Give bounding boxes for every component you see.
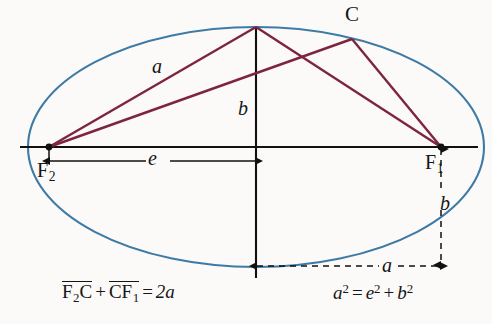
formula-cf1-letters: CF: [109, 281, 132, 302]
formula-e-base: e: [366, 282, 374, 303]
label-linear-eccentricity: e: [148, 148, 157, 168]
label-focus-right-subscript: 1: [436, 161, 443, 176]
label-point-c: C: [345, 4, 359, 25]
label-semi-major-upper: a: [152, 56, 162, 76]
formula-f2c-subscript: 2: [73, 290, 80, 305]
chord-f2-point-c: [49, 39, 352, 147]
label-focus-left-letter: F: [37, 159, 48, 181]
formula-term-cf1: CF1: [109, 281, 139, 305]
chord-point-c-f1: [352, 39, 441, 147]
label-focus-right-letter: F: [425, 151, 436, 173]
formula-a-base: a: [333, 282, 343, 303]
formula-pyth-plus: +: [381, 282, 398, 303]
label-semi-minor-right: b: [440, 193, 450, 213]
formula-term-f2c: F2C: [62, 281, 92, 305]
formula-f2c-c: C: [80, 281, 93, 302]
formula-a-exponent: 2: [343, 281, 349, 296]
formula-pyth-equals: =: [349, 282, 366, 303]
formula-b-exponent: 2: [407, 281, 413, 296]
label-focus-left: F2: [37, 160, 55, 183]
formula-pythagorean: a2=e2+b2: [333, 281, 413, 304]
formula-b-base: b: [397, 282, 407, 303]
diagram-canvas: a b e b a C F1 F2 F2C+CF1=2a a2=e2+b2: [0, 0, 492, 324]
formula-focal-sum: F2C+CF1=2a: [62, 281, 175, 305]
formula-focal-sum-result: 2a: [156, 281, 175, 302]
formula-plus-operator: +: [92, 281, 109, 302]
label-focus-left-subscript: 2: [48, 169, 55, 184]
label-semi-major-lower: a: [382, 255, 392, 275]
ellipse-figure: [0, 0, 492, 324]
formula-f2c-letter: F: [62, 281, 73, 302]
formula-e-exponent: 2: [374, 281, 380, 296]
chord-top-vertex-f1: [256, 27, 441, 147]
formula-equals-operator: =: [139, 281, 156, 302]
chord-f2-top-vertex: [49, 27, 256, 147]
label-focus-right: F1: [425, 152, 443, 175]
label-semi-minor-center: b: [238, 98, 248, 118]
